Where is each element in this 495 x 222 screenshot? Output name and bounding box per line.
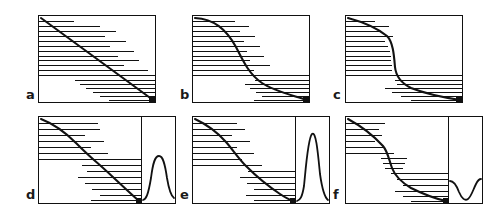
panel-f: f: [345, 116, 483, 204]
panel-b-frame: [193, 16, 310, 103]
panel-f-endpoint-marker: [443, 198, 448, 203]
panel-d-hatch-upper: [39, 123, 118, 159]
panel-label-a: a: [26, 88, 35, 101]
panel-f-hatch-mid: [381, 158, 407, 168]
panel-label-e: e: [180, 188, 189, 201]
panel-b: b: [192, 15, 310, 103]
panel-label-c: c: [333, 88, 341, 101]
panel-e-endpoint-marker: [290, 198, 295, 203]
panel-f-hatch-upper: [346, 123, 394, 153]
panel-a-plot: [38, 15, 156, 103]
panel-label-b: b: [180, 88, 189, 101]
panel-c-hatch-lower: [385, 75, 462, 100]
panel-d-endpoint-marker: [136, 198, 141, 203]
panel-f-histogram-curve: [450, 179, 481, 200]
panel-d-curve: [41, 119, 139, 201]
panel-b-endpoint-marker: [303, 96, 309, 102]
panel-c-endpoint-marker: [456, 96, 462, 102]
panel-a-endpoint-marker: [149, 96, 155, 102]
panel-label-d: d: [26, 188, 35, 201]
panel-c-hatch-upper: [346, 21, 393, 75]
panel-b-plot: [192, 15, 310, 103]
panel-f-plot: [345, 116, 483, 204]
panel-e: e: [192, 116, 330, 204]
panel-c: c: [345, 15, 463, 103]
panel-d-plot: [38, 116, 176, 204]
panel-c-frame: [346, 16, 463, 103]
panel-d-histogram-curve: [143, 156, 174, 200]
panel-e-histogram-curve: [297, 134, 328, 201]
panel-label-f: f: [333, 188, 339, 201]
figure-root: a: [0, 0, 495, 222]
panel-d: d: [38, 116, 176, 204]
panel-f-curve: [348, 119, 446, 201]
panel-f-hatch-lower: [391, 173, 448, 201]
panel-e-plot: [192, 116, 330, 204]
panel-c-plot: [345, 15, 463, 103]
panel-b-hatch-lower: [245, 75, 309, 100]
panel-a: a: [38, 15, 156, 103]
panel-a-hatch-lower: [62, 75, 155, 100]
